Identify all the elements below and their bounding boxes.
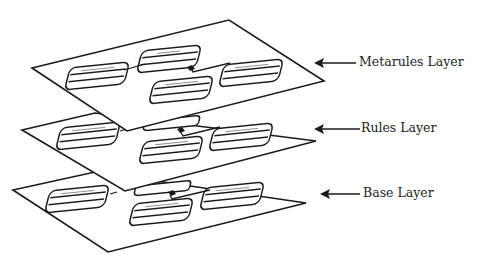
rules-arrow bbox=[314, 124, 360, 134]
metarules-arrow bbox=[314, 58, 356, 68]
rules-layer-label: Rules Layer bbox=[361, 120, 436, 135]
metarules-layer-plane bbox=[32, 20, 324, 131]
base-layer-plane bbox=[13, 172, 306, 252]
metarules-layer-label: Metarules Layer bbox=[359, 54, 464, 69]
base-arrow bbox=[320, 189, 360, 199]
base-layer-label: Base Layer bbox=[363, 185, 434, 200]
